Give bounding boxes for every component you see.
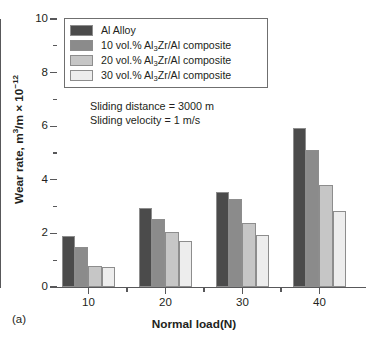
x-tick-label-40: 40	[299, 296, 339, 308]
bar	[75, 247, 88, 287]
legend-item-1: 10 vol.% Al3Zr/Al composite	[70, 38, 262, 53]
figure-panel-a: 0246810 10203040 Wear rate, m3/m × 10−12…	[0, 0, 388, 341]
legend-swatch-3	[70, 70, 93, 81]
bar	[102, 267, 115, 287]
x-tick-20	[165, 288, 166, 294]
bar	[229, 199, 242, 287]
bar	[165, 232, 178, 287]
y-axis-line	[0, 19, 1, 288]
x-minor-tick-2	[280, 288, 281, 292]
bar	[139, 208, 152, 287]
x-tick-label-30: 30	[222, 296, 262, 308]
bar	[306, 150, 319, 287]
y-tick-6	[50, 126, 57, 127]
annotation-line-1: Sliding distance = 3000 m	[90, 99, 214, 113]
bar	[179, 241, 192, 287]
legend-swatch-1	[70, 40, 93, 51]
y-axis-title-text: Wear rate, m3/m × 10−12	[11, 75, 25, 204]
bar	[88, 266, 101, 287]
y-axis-title: Wear rate, m3/m × 10−12	[11, 29, 26, 249]
legend-label-0: Al Alloy	[101, 25, 136, 36]
legend-label-1: 10 vol.% Al3Zr/Al composite	[101, 40, 231, 52]
annotation-line-2: Sliding velocity = 1 m/s	[90, 113, 214, 127]
panel-label: (a)	[12, 313, 26, 325]
bar	[333, 211, 346, 287]
x-tick-label-10: 10	[68, 296, 108, 308]
legend-swatch-0	[70, 25, 93, 36]
legend-label-2: 20 vol.% Al3Zr/Al composite	[101, 55, 231, 67]
x-minor-tick-0	[126, 288, 127, 292]
conditions-annotation: Sliding distance = 3000 m Sliding veloci…	[90, 99, 214, 127]
x-minor-tick-1	[203, 288, 204, 292]
y-tick-4	[50, 179, 57, 180]
legend-item-0: Al Alloy	[70, 23, 262, 38]
x-tick-10	[88, 288, 89, 294]
legend-label-3: 30 vol.% Al3Zr/Al composite	[101, 70, 231, 82]
x-tick-label-20: 20	[145, 296, 185, 308]
bar	[242, 223, 255, 287]
legend-item-2: 20 vol.% Al3Zr/Al composite	[70, 53, 262, 68]
y-tick-label-0: 0	[18, 281, 48, 293]
y-tick-8	[50, 72, 57, 73]
y-tick-2	[50, 233, 57, 234]
bar	[256, 235, 269, 287]
bar-group-40	[293, 19, 346, 287]
legend-item-3: 30 vol.% Al3Zr/Al composite	[70, 68, 262, 83]
y-tick-label-10: 10	[18, 13, 48, 25]
bar	[152, 219, 165, 287]
bar	[293, 128, 306, 287]
bar	[62, 236, 75, 287]
bar	[319, 185, 332, 287]
legend-swatch-2	[70, 55, 93, 66]
bar	[216, 192, 229, 287]
y-tick-10	[50, 18, 57, 19]
y-tick-0	[50, 286, 57, 287]
x-axis-title: Normal load(N)	[0, 317, 388, 331]
legend: Al Alloy10 vol.% Al3Zr/Al composite20 vo…	[64, 18, 268, 88]
x-tick-30	[242, 288, 243, 294]
x-tick-40	[319, 288, 320, 294]
